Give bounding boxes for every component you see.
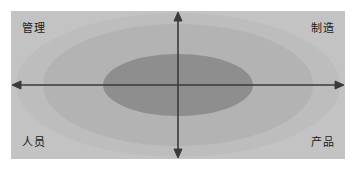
quadrant-label-bottom-left: 人员 [22, 137, 45, 148]
arrowhead-right-icon [335, 81, 344, 89]
quadrant-label-bottom-right: 产品 [311, 137, 334, 148]
quadrant-label-top-left: 管理 [22, 23, 45, 34]
quadrant-label-top-right: 制造 [311, 23, 334, 34]
arrowhead-up-icon [174, 12, 182, 21]
figure-root: 管理 制造 人员 产品 [0, 0, 355, 169]
arrowhead-left-icon [12, 81, 21, 89]
axis-layer [11, 11, 345, 159]
arrowhead-down-icon [174, 149, 182, 158]
diagram-panel: 管理 制造 人员 产品 [11, 11, 345, 159]
